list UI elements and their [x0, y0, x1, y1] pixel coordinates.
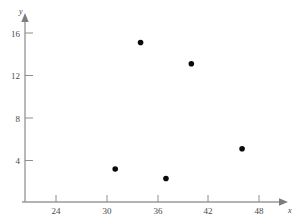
data-point — [163, 176, 169, 182]
y-tick-label: 16 — [11, 29, 21, 39]
x-tick-label: 30 — [103, 206, 113, 216]
data-point — [138, 40, 144, 46]
x-tick-label: 36 — [154, 206, 164, 216]
y-tick-marks-group — [25, 33, 33, 161]
x-tick-label: 48 — [255, 206, 265, 216]
data-point — [189, 61, 195, 67]
y-axis-label: y — [18, 7, 23, 16]
y-tick-label: 4 — [16, 156, 21, 166]
data-points-group — [112, 40, 244, 182]
x-tick-label: 42 — [204, 206, 213, 216]
data-point — [112, 166, 118, 172]
x-tick-label: 24 — [52, 206, 62, 216]
y-tick-label: 8 — [16, 114, 21, 124]
y-tick-labels-group: 16 12 8 4 — [11, 29, 21, 167]
x-axis-label: x — [287, 206, 292, 215]
y-tick-label: 12 — [11, 71, 20, 81]
x-tick-marks-group — [56, 195, 259, 202]
axes-group — [21, 13, 288, 206]
chart-canvas: 16 12 8 4 24 30 36 42 48 y x — [0, 0, 303, 218]
data-point — [239, 146, 245, 152]
scatter-plot-figure: 16 12 8 4 24 30 36 42 48 y x — [0, 0, 303, 218]
x-tick-labels-group: 24 30 36 42 48 — [52, 206, 265, 216]
x-axis-arrow-icon — [279, 198, 288, 205]
